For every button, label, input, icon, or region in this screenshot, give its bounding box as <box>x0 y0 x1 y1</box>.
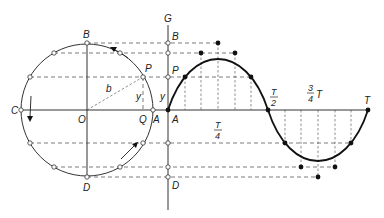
label-three-quarter-t: 3 4 T <box>307 83 323 104</box>
label-a-axis: A <box>171 114 179 125</box>
label-d-axis: D <box>172 180 179 191</box>
svg-text:2: 2 <box>270 98 276 108</box>
label-d-circle: D <box>83 182 90 193</box>
sine-construction-diagram: G B B P P C O Q A A D D b y y T T 2 T 4 … <box>0 0 384 218</box>
svg-text:T: T <box>271 87 278 97</box>
label-c: C <box>11 105 19 116</box>
svg-text:3: 3 <box>308 83 313 93</box>
label-g: G <box>164 13 172 24</box>
label-p-axis: P <box>172 65 179 76</box>
label-b-radius: b <box>106 83 112 94</box>
rotation-arc-left <box>30 96 31 117</box>
label-b-axis: B <box>172 31 179 42</box>
label-b-circle: B <box>83 29 90 40</box>
label-t-quarter: T 4 <box>214 120 222 141</box>
label-t: T <box>364 95 371 106</box>
radius-b <box>87 77 143 110</box>
label-y-circle: y <box>135 91 142 102</box>
svg-text:4: 4 <box>215 131 220 141</box>
label-a-circle: A <box>152 114 160 125</box>
arrow-head-left-icon <box>27 116 33 122</box>
label-p-circle: P <box>145 63 152 74</box>
svg-text:4: 4 <box>308 94 313 104</box>
label-q: Q <box>139 114 147 125</box>
label-t-half: T 2 <box>270 87 278 108</box>
label-y-axis: y <box>159 91 166 102</box>
arrow-head-top-icon <box>110 47 117 52</box>
label-o: O <box>78 114 86 125</box>
svg-text:T: T <box>215 120 222 130</box>
svg-text:T: T <box>316 89 323 100</box>
